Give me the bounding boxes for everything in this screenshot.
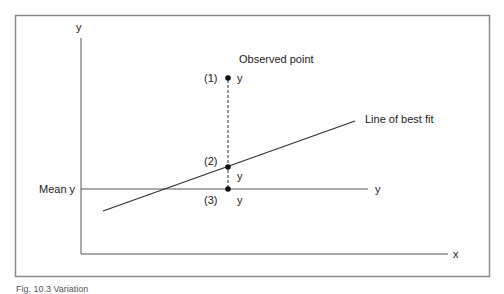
y-axis-label: y: [76, 21, 82, 33]
x-axis-label: x: [453, 248, 459, 260]
point-3-value: y: [237, 194, 243, 206]
mean-point-3: [225, 186, 231, 192]
figure-caption: Fig. 10.3 Variation: [16, 284, 88, 294]
best-fit-label: Line of best fit: [365, 113, 434, 125]
point-3-label: (3): [204, 194, 217, 206]
point-1-label: (1): [204, 72, 217, 84]
fitted-point-2: [225, 164, 231, 170]
mean-line-end-label: y: [375, 183, 381, 195]
mean-y-label: Mean y: [39, 183, 75, 195]
point-2-label: (2): [204, 155, 217, 167]
point-2-value: y: [237, 170, 243, 182]
observed-point-label: Observed point: [239, 53, 314, 65]
point-1-value: y: [237, 72, 243, 84]
observed-point-1: [225, 75, 231, 81]
